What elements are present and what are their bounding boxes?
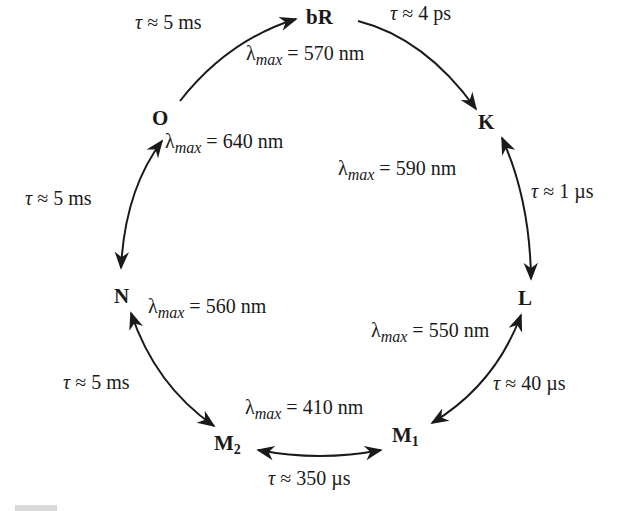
arrow-m2-n <box>131 313 214 426</box>
cycle-arrows <box>0 0 629 511</box>
lifetime-n-o: τ ≈ 5 ms <box>25 188 92 208</box>
arrow-k-l <box>502 138 531 279</box>
state-k: K <box>478 112 494 133</box>
lambda-o: λmax = 640 nm <box>165 131 283 156</box>
lifetime-l-m1: τ ≈ 40 µs <box>493 373 565 393</box>
state-br: bR <box>306 7 333 28</box>
state-l: L <box>518 288 532 309</box>
arrow-br-to-k <box>358 21 476 109</box>
state-m2: M2 <box>214 433 241 457</box>
lifetime-k-l: τ ≈ 1 µs <box>531 181 593 201</box>
lambda-n: λmax = 560 nm <box>148 296 266 321</box>
lambda-br: λmax = 570 nm <box>246 43 364 68</box>
state-o: O <box>152 108 168 129</box>
lambda-m: λmax = 410 nm <box>245 397 363 422</box>
lifetime-br-k: τ ≈ 4 ps <box>390 3 451 23</box>
lifetime-m2-n: τ ≈ 5 ms <box>63 372 130 392</box>
arrow-n-o <box>121 141 162 268</box>
arrow-m1-m2 <box>258 450 381 456</box>
lifetime-m1-m2: τ ≈ 350 µs <box>268 468 350 488</box>
lambda-k: λmax = 590 nm <box>338 158 456 183</box>
lambda-l: λmax = 550 nm <box>371 320 489 345</box>
lifetime-o-br: τ ≈ 5 ms <box>135 12 202 32</box>
state-n: N <box>114 286 129 307</box>
state-m1: M1 <box>392 425 419 449</box>
scan-artifact <box>15 505 57 511</box>
photocycle-diagram: bR K L M1 M2 N O λmax = 570 nm λmax = 59… <box>0 0 629 511</box>
